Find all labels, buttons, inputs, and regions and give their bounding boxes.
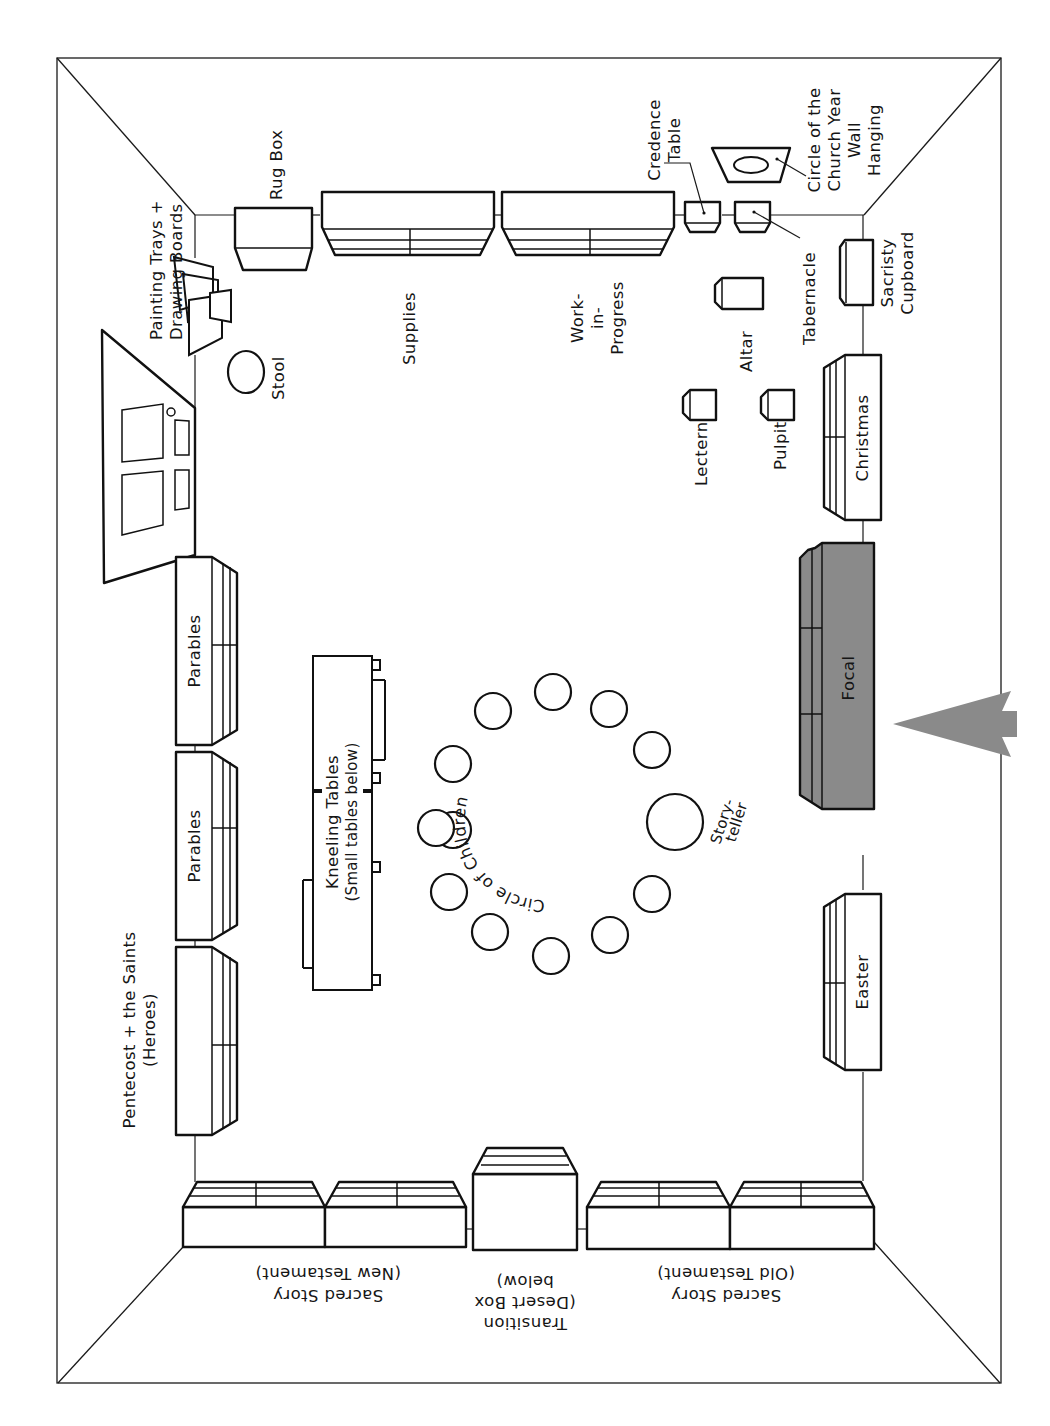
label-desert-box: (Desert Box — [474, 1293, 576, 1312]
label-church-year-1: Circle of the — [805, 87, 824, 192]
child-seat — [634, 876, 670, 912]
label-supplies: Supplies — [400, 292, 419, 365]
altar — [715, 278, 763, 309]
sacred-story-ot-shelf-2 — [730, 1182, 874, 1249]
label-pulpit: Pulpit — [771, 421, 790, 470]
child-seat — [472, 914, 508, 950]
child-seat — [634, 732, 670, 768]
pulpit — [761, 390, 794, 420]
label-lectern: Lectern — [692, 422, 711, 487]
label-credence-table: Table — [665, 118, 684, 164]
label-church-year-2: Church Year — [825, 89, 844, 192]
label-transition: Transition — [483, 1314, 568, 1333]
child-seat — [533, 938, 569, 974]
label-progress: Progress — [608, 281, 627, 355]
rug-box — [235, 208, 312, 270]
lectern — [683, 390, 716, 420]
label-easter: Easter — [853, 955, 872, 1010]
sacristy-cupboard — [840, 240, 873, 305]
work-in-progress-shelf — [502, 192, 674, 255]
label-sacristy: Sacristy — [878, 238, 897, 307]
label-parables-b: Parables — [185, 809, 204, 882]
entrance-arrow-icon — [893, 691, 1017, 757]
door — [102, 330, 195, 583]
pentecost-saints-shelf — [176, 947, 237, 1135]
tabernacle — [735, 202, 800, 238]
sacred-story-ot-shelf-1 — [587, 1182, 730, 1249]
transition-shelf — [473, 1148, 577, 1250]
label-work: Work- — [568, 293, 587, 343]
label-new-testament: (New Testament) — [255, 1264, 401, 1283]
sacred-story-nt-shelf-1 — [183, 1182, 325, 1247]
label-kneeling-tables: Kneeling Tables — [323, 755, 342, 889]
child-seat — [592, 917, 628, 953]
child-seat — [475, 693, 511, 729]
label-stool: Stool — [269, 356, 288, 400]
label-parables-a: Parables — [185, 614, 204, 687]
child-seat — [535, 674, 571, 710]
label-pentecost: Pentecost + the Saints — [120, 932, 139, 1129]
child-seat — [435, 746, 471, 782]
child-seat — [431, 874, 467, 910]
label-rug-box: Rug Box — [267, 130, 286, 200]
sacred-story-nt-shelf-2 — [325, 1182, 466, 1247]
label-old-testament: (Old Testament) — [657, 1264, 795, 1283]
label-church-year-3: Wall — [845, 122, 864, 158]
child-seat — [591, 691, 627, 727]
focal-shelf — [800, 543, 874, 809]
label-tabernacle: Tabernacle — [800, 252, 819, 346]
label-credence: Credence — [645, 99, 664, 181]
storyteller-seat — [647, 794, 703, 850]
label-sacred-story-nt: Sacred Story — [273, 1286, 383, 1305]
label-cupboard: Cupboard — [898, 231, 917, 314]
label-drawing-boards: Drawing Boards — [167, 203, 186, 340]
supplies-shelf — [322, 192, 494, 255]
church-year-wall-hanging — [712, 148, 806, 182]
label-christmas: Christmas — [853, 395, 872, 482]
label-painting-trays: Painting Trays + — [147, 200, 166, 340]
stool — [228, 351, 264, 393]
label-church-year-4: Hanging — [865, 104, 884, 176]
label-sacred-story-ot: Sacred Story — [671, 1286, 781, 1305]
label-altar: Altar — [737, 331, 756, 372]
label-small-tables: (Small tables below) — [343, 742, 361, 901]
label-heroes: (Heroes) — [140, 993, 159, 1067]
label-focal: Focal — [839, 656, 858, 701]
label-below: below) — [496, 1272, 554, 1291]
label-in: in- — [588, 307, 607, 329]
child-seat — [418, 810, 454, 846]
